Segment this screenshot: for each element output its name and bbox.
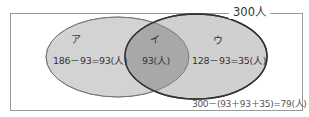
region-i-calculation: 93(人) <box>142 56 170 66</box>
region-label-a: ア <box>71 35 81 45</box>
region-a-calculation: 186－93=93(人) <box>53 56 127 66</box>
region-u-calculation: 128－93=35(人) <box>192 56 266 66</box>
region-label-i: イ <box>150 35 160 45</box>
universe-total-label: 300人 <box>229 7 270 19</box>
outside-calculation: 300－(93＋93＋35)=79(人) <box>192 100 307 109</box>
region-label-u: ウ <box>213 36 223 46</box>
